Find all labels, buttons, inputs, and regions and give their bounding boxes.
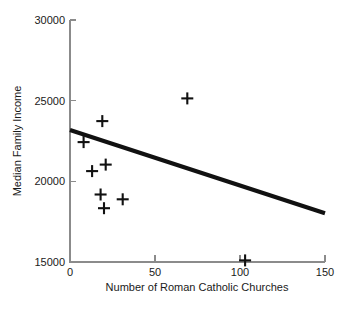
y-tick-label-25000: 25000 <box>34 95 65 107</box>
scatterplot-figure: 30000 25000 20000 15000 0 50 100 150 Num… <box>0 0 350 313</box>
y-tick-label-20000: 20000 <box>34 175 65 187</box>
x-tick-label-50: 50 <box>149 266 161 278</box>
y-tick-label-15000: 15000 <box>34 256 65 268</box>
y-tick-label-30000: 30000 <box>34 14 65 26</box>
x-tick-label-150: 150 <box>316 266 334 278</box>
x-axis-title: Number of Roman Catholic Churches <box>106 281 289 293</box>
y-axis-title: Median Family Income <box>11 86 23 197</box>
plot-canvas: 30000 25000 20000 15000 0 50 100 150 Num… <box>0 0 350 313</box>
x-tick-label-100: 100 <box>231 266 249 278</box>
x-tick-label-0: 0 <box>67 266 73 278</box>
